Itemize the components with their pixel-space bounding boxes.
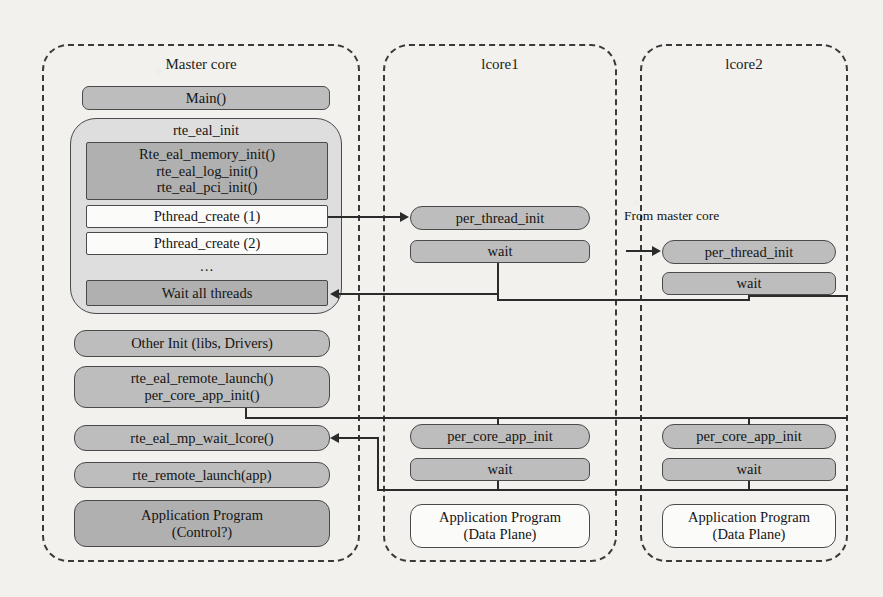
connector-pthread1-to-lcore1 — [328, 216, 402, 218]
box-lcore2-wait-bottom: wait — [662, 458, 836, 481]
box-rte-eal-mp-wait-lcore: rte_eal_mp_wait_lcore() — [74, 425, 330, 451]
connector-to-mp-wait-lcore — [338, 437, 378, 439]
box-other-init: Other Init (libs, Drivers) — [74, 330, 330, 357]
note-from-master-core: From master core — [624, 208, 719, 224]
box-rte-eal-remote-launch: rte_eal_remote_launch() per_core_app_ini… — [74, 366, 330, 408]
box-lcore1-application-program: Application Program (Data Plane) — [410, 504, 590, 548]
column-lcore2-title: lcore2 — [640, 56, 848, 73]
group-rte-eal-init-label: rte_eal_init — [70, 122, 342, 139]
connector-return-to-wait-all — [338, 293, 498, 295]
box-rte-remote-launch-app: rte_remote_launch(app) — [74, 462, 330, 488]
column-lcore1-title: lcore1 — [383, 56, 617, 73]
arrowhead-to-mp-wait-lcore — [330, 433, 339, 443]
box-pthread-create-2: Pthread_create (2) — [86, 232, 328, 255]
arrowhead-return-to-wait-all — [330, 289, 339, 299]
box-pthread-create-1: Pthread_create (1) — [86, 205, 328, 228]
connector-rail-to-lcore2-init — [748, 417, 750, 425]
diagram-canvas: Master core lcore1 lcore2 Main() rte_eal… — [0, 0, 883, 597]
connector-remote-launch-rail — [245, 417, 848, 419]
connector-lcore2-return — [748, 295, 848, 297]
box-lcore2-per-thread-init: per_thread_init — [662, 240, 836, 264]
column-lcore2 — [640, 44, 848, 562]
connector-lcore1-return-lower — [497, 299, 749, 301]
box-lcore1-wait-top: wait — [410, 240, 590, 263]
box-master-application-program: Application Program (Control?) — [74, 500, 330, 547]
column-lcore1 — [383, 44, 617, 562]
box-main: Main() — [82, 86, 330, 110]
connector-bottom-rail-up — [377, 437, 379, 490]
box-eal-sub-inits: Rte_eal_memory_init() rte_eal_log_init()… — [86, 142, 328, 200]
arrowhead-pthread1-to-lcore1 — [400, 212, 409, 222]
arrowhead-from-master-to-lcore2 — [652, 246, 661, 256]
column-master-core-title: Master core — [42, 56, 360, 73]
box-lcore2-application-program: Application Program (Data Plane) — [662, 504, 836, 548]
connector-from-master-to-lcore2 — [626, 250, 654, 252]
connector-bottom-rail — [377, 489, 848, 491]
box-lcore1-per-core-app-init: per_core_app_init — [410, 424, 590, 449]
box-lcore2-per-core-app-init: per_core_app_init — [662, 424, 836, 449]
connector-rail-to-lcore1-init — [497, 417, 499, 425]
box-lcore2-wait-top: wait — [662, 272, 836, 295]
box-lcore1-per-thread-init: per_thread_init — [410, 206, 590, 230]
box-lcore1-wait-bottom: wait — [410, 458, 590, 481]
box-wait-all-threads: Wait all threads — [86, 280, 328, 306]
ellipsis-more-threads: ... — [86, 258, 328, 275]
